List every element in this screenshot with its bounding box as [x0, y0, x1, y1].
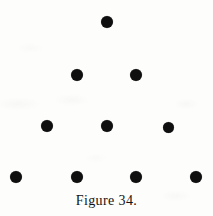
plot-dot [41, 120, 53, 132]
plot-dot [190, 171, 202, 183]
figure-container: Figure 34. [0, 0, 213, 216]
plot-dot [163, 122, 174, 133]
figure-caption: Figure 34. [0, 193, 213, 209]
plot-dot [101, 120, 113, 132]
plot-dot [130, 171, 142, 183]
paper-texture [0, 0, 213, 216]
plot-dot [130, 69, 142, 81]
plot-dot [10, 171, 22, 183]
plot-dot [71, 69, 83, 81]
plot-dot [101, 16, 113, 28]
plot-dot [71, 171, 83, 183]
